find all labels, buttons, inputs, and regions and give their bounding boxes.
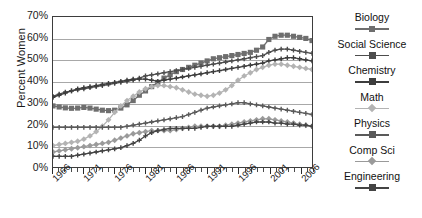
data-point [266, 62, 272, 68]
legend-item-math[interactable]: Math [322, 92, 422, 113]
data-point [94, 107, 99, 112]
data-point [106, 147, 111, 152]
legend-swatch-icon [355, 51, 389, 59]
legend-swatch-icon [355, 184, 389, 192]
data-point [242, 100, 247, 105]
data-point [260, 44, 265, 49]
data-point [285, 108, 290, 113]
data-point [223, 54, 228, 59]
data-point [284, 62, 290, 68]
y-tick-label: 40% [14, 75, 48, 86]
data-point [210, 92, 216, 98]
data-point [266, 105, 271, 110]
data-point [248, 63, 253, 68]
data-point [205, 70, 210, 75]
data-point [242, 64, 247, 69]
data-point [223, 102, 228, 107]
data-point [88, 151, 93, 156]
legend-item-chemistry[interactable]: Chemistry [322, 65, 422, 86]
data-point [63, 105, 68, 110]
data-point [125, 124, 130, 129]
data-point [137, 122, 142, 127]
data-point [118, 145, 123, 150]
data-point [81, 152, 86, 157]
data-point [100, 149, 105, 154]
data-point [199, 71, 204, 76]
data-point [180, 87, 186, 93]
data-point [229, 66, 234, 71]
data-point [143, 121, 148, 126]
data-point [106, 139, 112, 145]
data-point [125, 143, 130, 148]
data-point [88, 125, 93, 130]
legend-marker-diamond-icon [368, 104, 376, 112]
y-tick-label: 30% [14, 97, 48, 108]
data-point [162, 117, 167, 122]
data-point [69, 125, 74, 130]
data-point [254, 54, 259, 59]
legend-marker-cross-icon [369, 78, 376, 85]
data-point [291, 34, 296, 39]
data-point [87, 106, 92, 111]
data-point [279, 47, 284, 52]
legend-label: Comp Sci [322, 145, 422, 156]
series-engineering [53, 120, 312, 159]
data-point [272, 61, 278, 67]
data-point [180, 75, 185, 80]
data-point [143, 77, 148, 82]
data-point [310, 51, 312, 56]
data-point [260, 53, 265, 58]
data-point [211, 69, 216, 74]
data-point [155, 119, 160, 124]
data-point [112, 125, 117, 130]
legend-item-physics[interactable]: Physics [322, 118, 422, 139]
chart-figure: Percent Women 0%10%20%30%40%50%60%70% 19… [0, 0, 422, 218]
legend-label: Math [322, 92, 422, 103]
data-point [260, 120, 265, 125]
data-point [62, 140, 68, 146]
data-point [53, 103, 56, 108]
data-point [217, 55, 222, 60]
data-point [62, 147, 68, 153]
data-point [118, 135, 124, 141]
data-point [56, 142, 62, 148]
data-point [242, 56, 247, 61]
data-point [56, 148, 62, 154]
y-tick-label: 0% [14, 162, 48, 173]
data-point [297, 49, 302, 54]
data-point [248, 50, 253, 55]
legend-item-comp-sci[interactable]: Comp Sci [322, 145, 422, 166]
y-tick-label: 70% [14, 10, 48, 21]
data-point [309, 67, 312, 73]
data-point [285, 33, 290, 38]
data-point [266, 37, 271, 42]
legend-marker-cross-icon [369, 131, 376, 138]
legend-item-biology[interactable]: Biology [322, 12, 422, 33]
data-point [168, 116, 173, 121]
data-point [273, 121, 278, 126]
data-point [168, 77, 173, 82]
legend-item-social-science[interactable]: Social Science [322, 39, 422, 60]
series-biology [53, 33, 312, 114]
legend-swatch-icon [355, 104, 389, 112]
data-point [279, 56, 284, 61]
data-point [112, 137, 118, 143]
data-point [303, 123, 308, 128]
legend-swatch-icon [355, 78, 389, 86]
data-point [174, 76, 179, 81]
data-point [248, 55, 253, 60]
data-point [186, 112, 191, 117]
data-point [247, 70, 253, 76]
data-point [297, 64, 303, 70]
data-point [272, 34, 277, 39]
data-point [136, 130, 142, 136]
data-point [205, 58, 210, 63]
legend-marker-cross-icon [369, 184, 376, 191]
data-point [75, 125, 80, 130]
data-point [254, 62, 259, 67]
data-point [291, 109, 296, 114]
legend-item-engineering[interactable]: Engineering [322, 171, 422, 192]
data-point [235, 52, 240, 57]
data-point [217, 104, 222, 109]
data-point [192, 110, 197, 115]
